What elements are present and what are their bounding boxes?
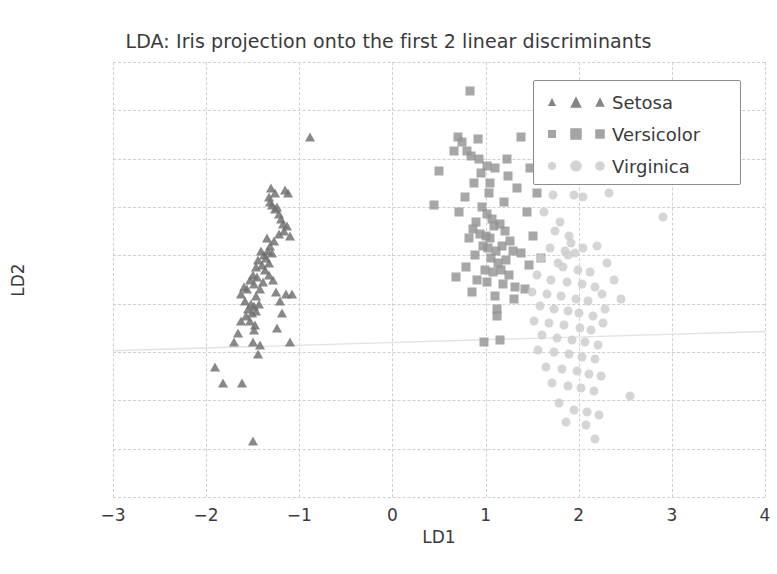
data-point-virginica [575, 323, 584, 332]
y-axis-label: LD2 [8, 263, 28, 296]
legend-triangle-icon [570, 96, 582, 108]
data-point-versicolor [495, 335, 504, 344]
data-point-setosa [233, 328, 243, 337]
data-point-virginica [583, 408, 592, 417]
data-point-virginica [658, 212, 667, 221]
data-point-virginica [574, 309, 583, 318]
x-tick-label: −3 [100, 505, 125, 525]
data-point-versicolor [501, 227, 510, 236]
legend-triangle-icon [548, 98, 556, 106]
gridline-vertical [299, 62, 300, 497]
data-point-versicolor [474, 135, 483, 144]
data-point-versicolor [486, 178, 495, 187]
data-point-virginica [579, 193, 588, 202]
data-point-virginica [564, 306, 573, 315]
data-point-virginica [553, 333, 562, 342]
data-point-virginica [598, 319, 607, 328]
gridline-vertical [113, 62, 114, 497]
data-point-versicolor [449, 147, 458, 156]
x-axis-label: LD1 [422, 527, 455, 547]
data-point-virginica [590, 355, 599, 364]
data-point-setosa [237, 379, 247, 388]
data-point-virginica [584, 297, 593, 306]
data-point-virginica [595, 410, 604, 419]
data-point-versicolor [473, 275, 482, 284]
gridline-horizontal [113, 304, 765, 305]
data-point-versicolor [511, 282, 520, 291]
legend-marker-group [534, 161, 612, 171]
data-point-setosa [271, 287, 281, 296]
data-point-setosa [240, 297, 250, 306]
gridline-horizontal [113, 497, 765, 498]
x-tick-label: 3 [666, 505, 677, 525]
data-point-virginica [545, 244, 554, 253]
data-point-versicolor [455, 207, 464, 216]
legend-marker-group [534, 97, 612, 107]
data-point-virginica [577, 280, 586, 289]
data-point-virginica [591, 435, 600, 444]
legend[interactable]: SetosaVersicolorVirginica [533, 80, 741, 185]
legend-item-versicolor[interactable]: Versicolor [534, 118, 740, 150]
chart-figure: LDA: Iris projection onto the first 2 li… [0, 0, 777, 574]
legend-square-icon [595, 129, 605, 139]
data-point-virginica [546, 275, 555, 284]
data-point-versicolor [499, 280, 508, 289]
data-point-virginica [602, 258, 611, 267]
data-point-virginica [582, 420, 591, 429]
data-point-setosa [210, 362, 220, 371]
legend-item-setosa[interactable]: Setosa [534, 86, 740, 118]
data-point-virginica [530, 316, 539, 325]
data-point-virginica [604, 188, 613, 197]
data-point-virginica [551, 227, 560, 236]
data-point-setosa [305, 132, 315, 141]
gridline-vertical [206, 62, 207, 497]
data-point-versicolor [483, 161, 492, 170]
data-point-versicolor [483, 277, 492, 286]
data-point-virginica [570, 406, 579, 415]
data-point-virginica [533, 345, 542, 354]
data-point-virginica [567, 239, 576, 248]
data-point-virginica [571, 294, 580, 303]
data-point-setosa [253, 350, 263, 359]
data-point-setosa [245, 316, 255, 325]
x-tick-label: 4 [760, 505, 771, 525]
data-point-virginica [556, 217, 565, 226]
legend-item-virginica[interactable]: Virginica [534, 150, 740, 182]
data-point-virginica [528, 287, 537, 296]
data-point-virginica [548, 190, 557, 199]
data-point-setosa [287, 290, 297, 299]
data-point-setosa [285, 338, 295, 347]
gridline-horizontal [113, 255, 765, 256]
legend-marker-group [534, 129, 612, 139]
data-point-virginica [600, 304, 609, 313]
data-point-virginica [557, 364, 566, 373]
data-point-virginica [558, 263, 567, 272]
data-point-setosa [262, 234, 272, 243]
data-point-virginica [593, 241, 602, 250]
data-point-versicolor [502, 154, 511, 163]
data-point-virginica [532, 270, 541, 279]
x-tick-label: −2 [194, 505, 219, 525]
x-tick-label: −1 [287, 505, 312, 525]
gridline-horizontal [113, 352, 765, 353]
data-point-virginica [578, 352, 587, 361]
data-point-versicolor [529, 232, 538, 241]
x-tick-label: 1 [480, 505, 491, 525]
data-point-virginica [542, 362, 551, 371]
data-point-virginica [585, 268, 594, 277]
data-point-virginica [538, 331, 547, 340]
data-point-virginica [610, 275, 619, 284]
data-point-virginica [540, 207, 549, 216]
data-point-virginica [572, 367, 581, 376]
data-point-virginica [589, 386, 598, 395]
data-point-versicolor [509, 294, 518, 303]
data-point-virginica [535, 302, 544, 311]
page-title: LDA: Iris projection onto the first 2 li… [0, 30, 777, 52]
data-point-versicolor [451, 273, 460, 282]
data-point-setosa [249, 326, 259, 335]
data-point-virginica [562, 277, 571, 286]
data-point-setosa [229, 338, 239, 347]
data-point-virginica [555, 398, 564, 407]
legend-circle-icon [595, 161, 605, 171]
data-point-virginica [625, 391, 634, 400]
